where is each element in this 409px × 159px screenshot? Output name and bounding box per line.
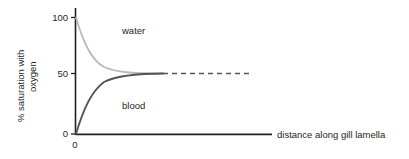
series-label-water: water (121, 25, 145, 36)
series-line-blood (76, 74, 163, 135)
series-line-water (76, 18, 163, 74)
y-tick-label-50: 50 (57, 68, 68, 79)
x-tick-label-0: 0 (72, 139, 77, 150)
y-tick-label-0: 0 (63, 128, 68, 139)
y-axis-title-line-2: oxygen (27, 61, 38, 92)
series-label-blood: blood (122, 100, 145, 111)
y-tick-label-100: 100 (52, 12, 68, 23)
chart-plot-area: 100 50 0 0 water blood distance along gi… (0, 0, 409, 159)
y-axis-title-line-1: % saturation with (15, 50, 26, 122)
x-axis-title: distance along gill lamella (277, 129, 386, 140)
chart-figure: 100 50 0 0 water blood distance along gi… (0, 0, 409, 159)
